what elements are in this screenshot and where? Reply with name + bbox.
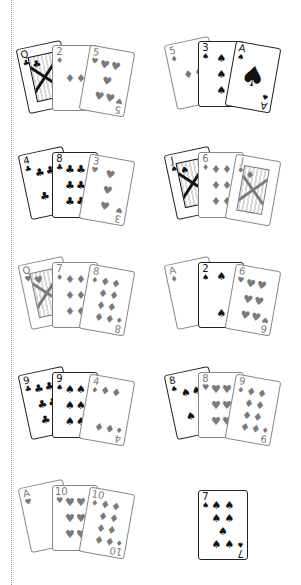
suit-icon: ♠ [55, 384, 64, 392]
hand-8: 8♠ ♠♠♠♠ 8♥ ♥♥♥♥♥♥ 9♦ ♦♦♦♦♦♦♦♦ 9♦ [164, 365, 294, 475]
card[interactable]: 8♦ ♦♦♦♦♦♦♦♦ 8♦ [79, 264, 136, 337]
hand-2: 5♦ ♦♦ 3♠ ♠♠♠ A♠ ♠ A♠ [164, 34, 294, 144]
card[interactable]: 5♥ ♥♥♥♥♥ 5♥ [79, 45, 136, 118]
suit-icon: ♠ [201, 502, 210, 510]
suit-icon: ♦ [55, 57, 64, 65]
dotted-divider [11, 0, 12, 585]
hand-7: 9♣ ♣♣♣♣♣♣ 9♠ ♠♠♠♠♠♠ 4♦ ♦♦♦♦ 4♦ [18, 365, 148, 475]
card[interactable]: 9♦ ♦♦♦♦♦♦♦♦ 9♦ [225, 374, 282, 447]
pips: ♠♠♠♠♠♠♠ [210, 499, 236, 551]
suit-icon: ♠ [201, 53, 210, 61]
card[interactable]: J♦ ♦ [225, 154, 282, 227]
hand-9: A♥ 10♥ ♥♥♥♥♥♥ 10♦ ♦♦♦♦♦♦♦♦ 10♦ [18, 478, 148, 585]
hand-1: Q♣ ♣ 2♦ ♦♦ 5♥ ♥♥♥♥♥ 5♥ [18, 40, 148, 150]
suit-icon: ♥ [55, 497, 64, 505]
ace-spade-icon: ♠ [229, 59, 277, 94]
suit-icon: ♥ [23, 498, 33, 508]
suit-icon: ♥ [201, 384, 210, 392]
card[interactable]: 6♥ ♥♥♥♥♥♥ 6♥ [225, 264, 282, 337]
card[interactable]: A♠ ♠ A♠ [225, 41, 282, 114]
hand-6: A♦ 2♠ ♠♠ 6♥ ♥♥♥♥♥♥ 6♥ [164, 255, 294, 365]
card[interactable]: 3♥ ♥♥♥ 3♥ [79, 154, 136, 227]
suit-icon: ♦ [169, 275, 179, 285]
suit-icon: ♦ [201, 164, 210, 172]
suit-icon: ♣ [55, 164, 64, 172]
suit-icon: ♣ [31, 58, 42, 71]
suit-icon: ♠ [201, 274, 210, 282]
suit-icon: ♦ [55, 274, 64, 282]
hand-4: J♠ ♠ 6♦ ♦♦♦♦♦♦ J♦ ♦ [164, 145, 294, 255]
hand-10: 7♠ ♠♠♠♠♠♠♠ 7♠ [164, 478, 294, 585]
hand-3: 4♣ ♣♣♣♣ 8♣ ♣♣♣♣♣♣ 3♥ ♥♥♥ 3♥ [18, 145, 148, 255]
card[interactable]: 7♠ ♠♠♠♠♠♠♠ 7♠ [198, 490, 248, 560]
card[interactable]: 10♦ ♦♦♦♦♦♦♦♦ 10♦ [79, 487, 136, 560]
card[interactable]: 4♦ ♦♦♦♦ 4♦ [79, 374, 136, 447]
hand-5: Q♥ ♥ 7♦ ♦♦♦♦♦♦ 8♦ ♦♦♦♦♦♦♦♦ 8♦ [18, 255, 148, 365]
